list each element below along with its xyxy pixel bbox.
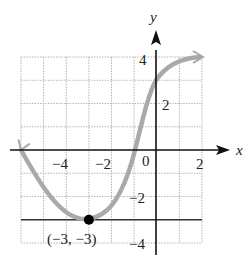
tick-y-2: 2: [162, 97, 170, 113]
tick-x-m4: −4: [52, 156, 68, 172]
tick-x-m2: −2: [95, 156, 111, 172]
function-curve: [21, 57, 200, 219]
tick-x-2: 2: [196, 156, 204, 172]
point-label: (−3, −3): [47, 231, 96, 248]
tick-x-0: 0: [142, 153, 150, 169]
y-axis-arrow-icon: [151, 30, 161, 45]
x-axis-label: x: [235, 142, 243, 158]
graph: y x 4 2 −2 −4 −4 −2 0 2 (−3, −3): [0, 0, 250, 262]
tick-y-m2: −2: [129, 190, 145, 206]
tick-y-m4: −4: [129, 236, 145, 252]
point-marker: [84, 215, 94, 225]
tick-y-4: 4: [139, 52, 147, 68]
y-axis-label: y: [148, 9, 157, 25]
